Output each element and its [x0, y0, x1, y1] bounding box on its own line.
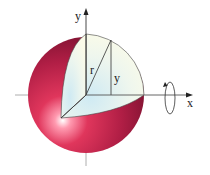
y-axis-label: y: [75, 9, 81, 23]
rotation-arrow-icon: [165, 82, 175, 114]
x-axis-label: x: [187, 96, 193, 110]
y-axis-arrow-icon: [84, 8, 89, 15]
sphere-volume-diagram: y r y x: [0, 0, 210, 175]
radius-label: r: [90, 63, 94, 77]
height-label: y: [114, 71, 120, 85]
